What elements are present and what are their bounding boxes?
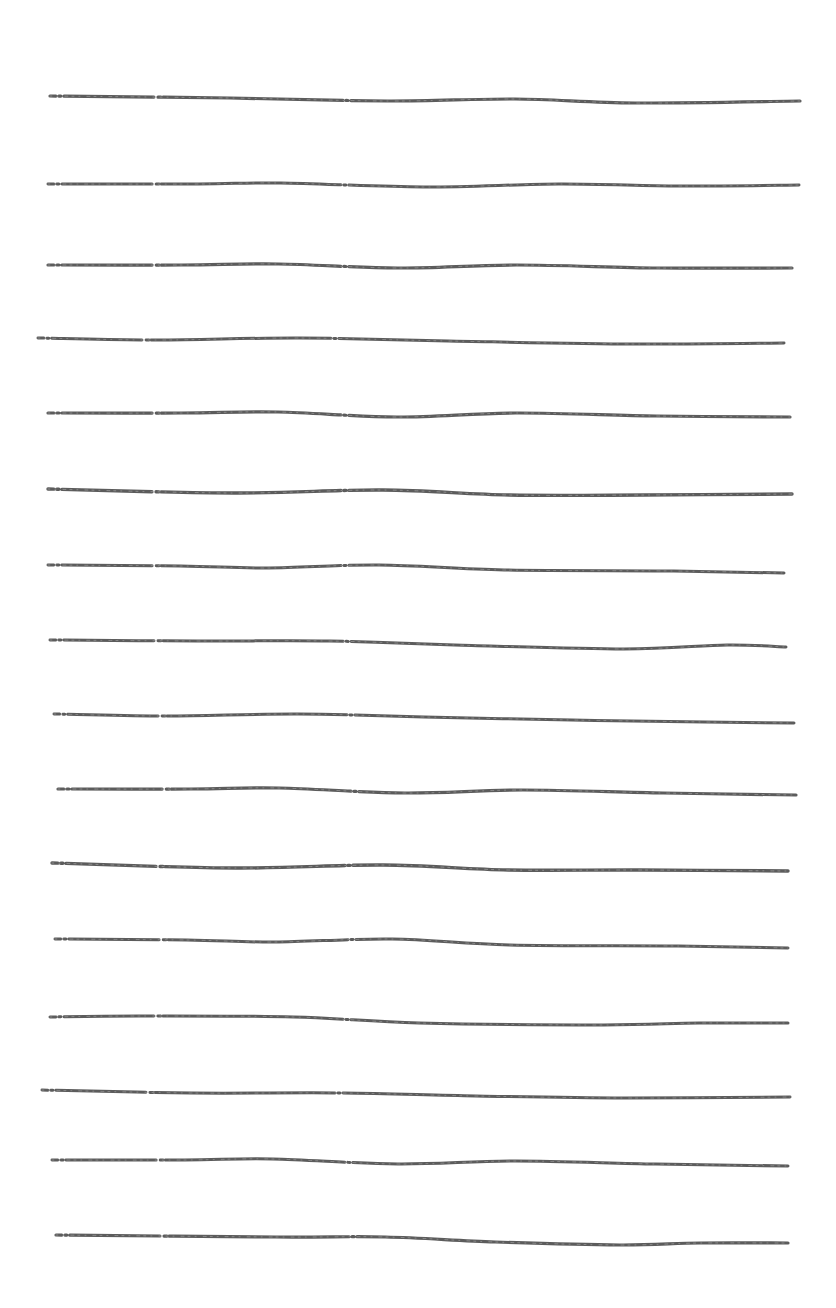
ruled-sheet — [0, 0, 836, 1308]
hand-drawn-line-14 — [42, 1090, 790, 1098]
hand-drawn-line-1 — [50, 96, 800, 103]
hand-drawn-line-11 — [52, 863, 788, 871]
hand-drawn-line-16 — [56, 1235, 788, 1245]
hand-drawn-line-8 — [50, 640, 786, 649]
hand-drawn-line-9 — [54, 714, 794, 723]
hand-drawn-line-12 — [55, 939, 788, 948]
hand-drawn-lines — [0, 0, 836, 1308]
hand-drawn-line-13 — [50, 1016, 788, 1025]
hand-drawn-line-4 — [38, 338, 784, 344]
hand-drawn-line-3 — [48, 264, 792, 268]
